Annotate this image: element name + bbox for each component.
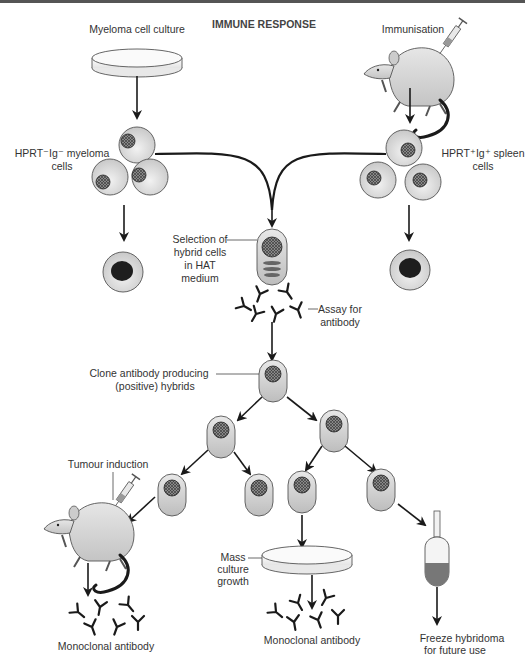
hybridoma-l2-left: [207, 416, 235, 458]
label-clone-1: Clone antibody producing: [89, 367, 208, 379]
freeze-vial-icon: [425, 511, 449, 586]
arrow-clone-right: [287, 397, 316, 420]
label-mono-center: Monoclonal antibody: [264, 634, 361, 646]
fusion-line-myeloma: [155, 153, 272, 210]
hybrid-cell: [257, 229, 287, 285]
hybridoma-diagram: IMMUNE RESPONSE Myeloma cell culture HPR…: [0, 0, 525, 667]
hybridoma-l3-1: [158, 474, 186, 516]
dead-spleen-cell: [390, 250, 430, 290]
label-selection-1: Selection of: [173, 233, 228, 245]
label-selection-4: medium: [181, 272, 219, 284]
label-myeloma-cells-1: HPRT⁻Ig⁻ myeloma: [15, 147, 110, 159]
label-freeze-1: Freeze hybridoma: [420, 632, 505, 644]
label-spleen-cells-1: HPRT⁺Ig⁺ spleen: [441, 147, 524, 159]
assay-antibodies: [236, 284, 307, 324]
monoclonal-antibodies-left: [70, 597, 144, 637]
label-mass-3: growth: [217, 575, 249, 587]
label-myeloma-culture: Myeloma cell culture: [89, 23, 185, 35]
arrow-l2-left-a: [182, 450, 208, 474]
clone-cell: [259, 360, 287, 402]
arrow-to-freeze: [398, 504, 425, 525]
label-mass-1: Mass: [220, 551, 245, 563]
label-assay-2: antibody: [320, 316, 360, 328]
label-clone-2: (positive) hybrids: [115, 380, 194, 392]
label-immunisation: Immunisation: [382, 23, 445, 35]
mouse-icon: [364, 48, 454, 138]
mouse-tumour-icon: [44, 503, 134, 593]
arrow-l2-left-b: [234, 452, 250, 474]
arrow-clone-left: [238, 397, 262, 420]
hybridoma-l3-3: [288, 471, 316, 513]
dead-myeloma-cell: [103, 252, 143, 292]
label-mass-2: culture: [217, 563, 249, 575]
hybridoma-l3-4: [367, 469, 395, 511]
arrow-l2-right-a: [306, 446, 322, 470]
label-assay-1: Assay for: [318, 303, 362, 315]
label-tumour-induction: Tumour induction: [68, 458, 149, 470]
petri-dish-icon: [92, 49, 182, 77]
label-myeloma-cells-2: cells: [51, 160, 72, 172]
label-freeze-2: for future use: [424, 644, 486, 656]
spleen-cell-cluster: [360, 130, 441, 200]
diagram-title: IMMUNE RESPONSE: [212, 18, 316, 30]
label-selection-3: in HAT: [184, 259, 216, 271]
label-spleen-cells-2: cells: [472, 160, 493, 172]
arrow-l2-right-b: [345, 446, 376, 472]
label-mono-left: Monoclonal antibody: [58, 640, 155, 652]
hybridoma-l3-2: [245, 474, 273, 516]
monoclonal-antibodies-center: [268, 590, 344, 631]
myeloma-cell-cluster: [92, 127, 168, 195]
arrow-to-tumour-mouse: [128, 497, 155, 522]
hybridoma-l2-right: [320, 410, 348, 452]
mass-culture-dish-icon: [262, 546, 352, 574]
label-selection-2: hybrid cells: [174, 246, 227, 258]
